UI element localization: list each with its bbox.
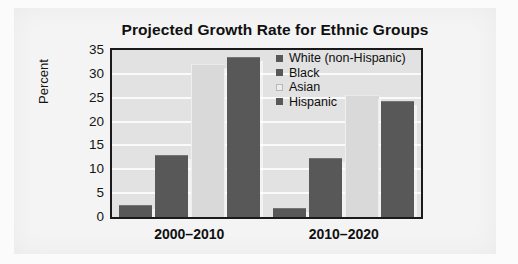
bar-shadow [414, 105, 417, 217]
bar-body [191, 64, 225, 218]
y-tick-label: 30 [68, 66, 104, 81]
bar [381, 101, 414, 217]
bar [309, 158, 342, 217]
bar [155, 155, 188, 217]
legend-label: White (non-Hispanic) [289, 51, 406, 65]
y-tick-label: 5 [68, 185, 104, 200]
bar [191, 64, 224, 217]
bar [119, 205, 152, 217]
chart-legend: White (non-Hispanic)BlackAsianHispanic [276, 51, 406, 109]
legend-item: White (non-Hispanic) [276, 51, 406, 66]
bar [345, 95, 378, 217]
legend-swatch-icon [276, 69, 283, 76]
bar-body [119, 205, 152, 218]
legend-label: Asian [289, 80, 320, 94]
bar-body [345, 95, 379, 218]
chart-title: Projected Growth Rate for Ethnic Groups [0, 21, 518, 39]
legend-item: Black [276, 66, 406, 81]
legend-label: Black [289, 66, 320, 80]
bar-body [273, 208, 306, 218]
bar-body [309, 158, 342, 218]
y-axis-label: Percent [36, 59, 51, 104]
bar-shadow [260, 61, 263, 217]
y-tick-label: 15 [68, 137, 104, 152]
bar [227, 57, 260, 217]
y-tick-label: 35 [68, 42, 104, 57]
legend-swatch-icon [276, 98, 283, 105]
legend-item: Hispanic [276, 95, 406, 110]
bar-body [155, 155, 188, 218]
chart-figure: Projected Growth Rate for Ethnic Groups … [0, 0, 518, 264]
bar-body [227, 57, 260, 218]
y-tick-label: 20 [68, 114, 104, 129]
y-tick-label: 25 [68, 90, 104, 105]
bar [273, 208, 306, 217]
y-tick-label: 0 [68, 209, 104, 224]
bar-body [381, 101, 414, 218]
legend-swatch-icon [276, 84, 283, 91]
x-tick-label: 2010–2020 [264, 226, 424, 242]
legend-item: Asian [276, 80, 406, 95]
legend-swatch-icon [276, 55, 283, 62]
y-tick-label: 10 [68, 161, 104, 176]
legend-label: Hispanic [289, 95, 337, 109]
x-tick-label: 2000–2010 [109, 226, 269, 242]
